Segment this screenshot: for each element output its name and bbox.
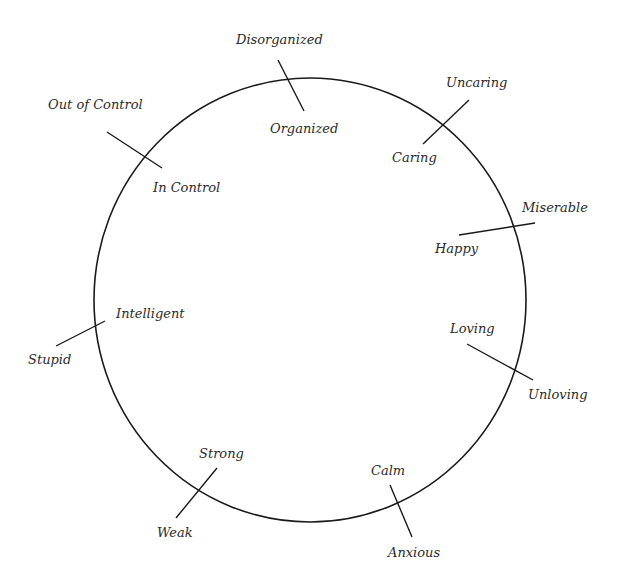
wheel-circle xyxy=(94,78,526,522)
label-loving: Loving xyxy=(449,321,495,336)
label-strong: Strong xyxy=(199,446,244,461)
label-uncaring: Uncaring xyxy=(446,75,507,90)
label-disorganized: Disorganized xyxy=(235,32,323,47)
axis-line-caring xyxy=(423,100,469,144)
label-in-control: In Control xyxy=(152,180,220,195)
axis-line-organized xyxy=(278,60,304,111)
label-caring: Caring xyxy=(392,150,437,165)
axis-line-loving xyxy=(467,344,533,380)
label-out-of-control: Out of Control xyxy=(48,97,143,112)
label-anxious: Anxious xyxy=(387,545,440,560)
label-happy: Happy xyxy=(434,241,479,256)
label-stupid: Stupid xyxy=(28,352,71,367)
label-organized: Organized xyxy=(270,121,338,136)
label-weak: Weak xyxy=(157,525,193,540)
axis-line-strong xyxy=(176,468,217,518)
label-calm: Calm xyxy=(371,463,405,478)
axis-line-calm xyxy=(390,485,412,537)
axis-line-happy xyxy=(459,223,535,235)
label-intelligent: Intelligent xyxy=(115,306,185,321)
label-unloving: Unloving xyxy=(528,387,588,402)
label-miserable: Miserable xyxy=(521,200,588,215)
bipolar-trait-wheel: Disorganized Organized Uncaring Caring M… xyxy=(0,0,620,586)
axis-line-in-control xyxy=(107,132,162,168)
